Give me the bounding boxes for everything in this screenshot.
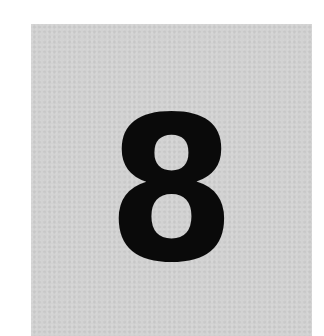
digit-label: 8 <box>42 90 301 290</box>
image-canvas: 8 <box>0 0 324 336</box>
gray-card: 8 <box>31 24 312 336</box>
